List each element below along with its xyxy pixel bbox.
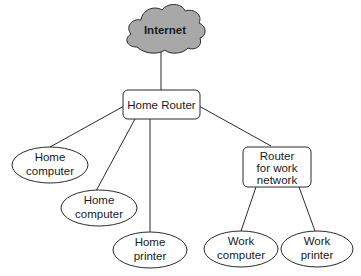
work-router-line2: for work xyxy=(257,162,298,174)
work-router-line3: network xyxy=(257,174,298,186)
home-computer-2-line2: computer xyxy=(75,208,123,220)
edge-work-router-work-printer xyxy=(299,187,315,231)
edge-router-home-computer-1 xyxy=(50,106,124,147)
internet-label: Internet xyxy=(144,24,186,36)
home-printer-line2: printer xyxy=(134,250,167,262)
internet-cloud: Internet xyxy=(127,4,205,53)
edge-work-router-work-computer xyxy=(241,187,256,231)
work-printer-node: Work printer xyxy=(281,231,353,267)
home-computer-1-line1: Home xyxy=(35,151,66,163)
work-computer-line2: computer xyxy=(217,249,265,261)
work-printer-line2: printer xyxy=(301,249,334,261)
home-router-label: Home Router xyxy=(127,99,196,111)
home-computer-1-line2: computer xyxy=(26,165,74,177)
edge-router-home-computer-2 xyxy=(96,119,135,191)
home-computer-2-node: Home computer xyxy=(61,190,137,226)
home-printer-node: Home printer xyxy=(113,232,187,268)
home-printer-line1: Home xyxy=(135,236,166,248)
network-diagram: Internet Home Router Home computer Home … xyxy=(0,0,361,276)
home-router-node: Home Router xyxy=(123,90,200,119)
work-computer-node: Work computer xyxy=(204,231,278,267)
work-router-line1: Router xyxy=(260,150,295,162)
edge-router-work-router xyxy=(199,106,271,146)
home-computer-1-node: Home computer xyxy=(12,147,88,183)
work-computer-line1: Work xyxy=(228,235,255,247)
home-computer-2-line1: Home xyxy=(84,194,115,206)
work-router-node: Router for work network xyxy=(243,147,311,187)
work-printer-line1: Work xyxy=(304,235,331,247)
